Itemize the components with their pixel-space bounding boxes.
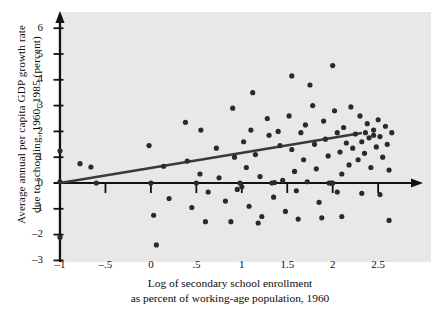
scatter-point [223, 198, 228, 203]
scatter-point [256, 220, 261, 225]
scatter-point [321, 118, 326, 123]
y-tick-label: –2 [17, 227, 43, 239]
scatter-point [197, 171, 202, 176]
scatter-point [147, 143, 152, 148]
y-tick-label: 3 [17, 98, 43, 110]
scatter-point [335, 130, 340, 135]
scatter-point [383, 124, 388, 129]
scatter-point [272, 180, 277, 185]
x-tick-label: 1.5 [272, 258, 302, 270]
x-tick-label: 1 [227, 258, 257, 270]
scatter-point [292, 169, 297, 174]
scatter-point [266, 133, 271, 138]
scatter-point [77, 161, 82, 166]
scatter-point [271, 195, 276, 200]
scatter-point [166, 196, 171, 201]
scatter-point [332, 108, 337, 113]
scatter-point [337, 149, 342, 154]
scatter-point [244, 165, 249, 170]
scatter-point [380, 155, 385, 160]
scatter-point [57, 235, 62, 240]
scatter-point [301, 157, 306, 162]
scatter-point [183, 120, 188, 125]
x-tick-label: 2 [318, 258, 348, 270]
scatter-point [339, 214, 344, 219]
scatter-point [280, 178, 285, 183]
scatter-point [326, 153, 331, 158]
scatter-point [389, 130, 394, 135]
scatter-point [194, 180, 199, 185]
scatter-point [353, 131, 358, 136]
scatter-point [359, 139, 364, 144]
scatter-point [235, 187, 240, 192]
scatter-point [283, 209, 288, 214]
scatter-point [296, 217, 301, 222]
scatter-point [335, 189, 340, 194]
scatter-point [323, 137, 328, 142]
x-tick-label: –1 [45, 258, 75, 270]
y-tick-label: 4 [17, 72, 43, 84]
scatter-point [348, 104, 353, 109]
scatter-point [214, 146, 219, 151]
scatter-point [376, 117, 381, 122]
scatter-point [386, 168, 391, 173]
scatter-point [339, 171, 344, 176]
scatter-point [330, 63, 335, 68]
x-tick-label: 0 [136, 258, 166, 270]
scatter-point [341, 125, 346, 130]
scatter-point [216, 175, 221, 180]
scatter-point [57, 179, 62, 184]
scatter-point [277, 143, 282, 148]
scatter-point [151, 213, 156, 218]
x-axis-arrow [411, 178, 423, 187]
scatter-point [246, 204, 251, 209]
scatter-point [350, 146, 355, 151]
scatter-point [305, 179, 310, 184]
scatter-point [250, 90, 255, 95]
scatter-point [228, 219, 233, 224]
scatter-point [294, 188, 299, 193]
scatter-point [386, 218, 391, 223]
y-tick-label: –1 [17, 201, 43, 213]
trendline [60, 133, 362, 183]
scatter-point [94, 180, 99, 185]
y-tick-label: 2 [17, 124, 43, 136]
scatter-point [286, 113, 291, 118]
scatter-point [344, 140, 349, 145]
scatter-point [310, 103, 315, 108]
scatter-point [265, 116, 270, 121]
scatter-point [330, 180, 335, 185]
scatter-point [377, 192, 382, 197]
scatter-point [356, 157, 361, 162]
scatter-point [363, 130, 368, 135]
scatter-point [206, 189, 211, 194]
scatter-point [357, 113, 362, 118]
chart-figure: Average annual per capita GDP growth rat… [0, 0, 431, 312]
scatter-point [319, 215, 324, 220]
scatter-point [374, 144, 379, 149]
scatter-point [198, 128, 203, 133]
scatter-point [359, 191, 364, 196]
scatter-point [154, 242, 159, 247]
scatter-point [257, 174, 262, 179]
scatter-point [366, 135, 371, 140]
scatter-point [185, 158, 190, 163]
scatter-point [316, 200, 321, 205]
scatter-point [314, 166, 319, 171]
scatter-point [385, 142, 390, 147]
scatter-point [148, 180, 153, 185]
scatter-point [276, 129, 281, 134]
scatter-point [230, 106, 235, 111]
y-tick-label: 6 [17, 21, 43, 33]
scatter-point [161, 164, 166, 169]
scatter-point [289, 73, 294, 78]
scatter-point [303, 122, 308, 127]
scatter-point [307, 82, 312, 87]
scatter-point [365, 121, 370, 126]
y-tick-label: 1 [17, 150, 43, 162]
scatter-point [232, 155, 237, 160]
scatter-point [189, 205, 194, 210]
scatter-point [368, 165, 373, 170]
scatter-point [312, 142, 317, 147]
scatter-point [298, 130, 303, 135]
